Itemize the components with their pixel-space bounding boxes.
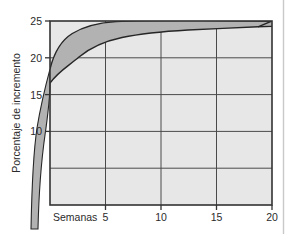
y-axis-title: Porcentaje de incremento xyxy=(10,53,22,173)
y-tick-label-10: 10 xyxy=(30,125,42,137)
x-tick-label-20: 20 xyxy=(266,211,278,223)
chart-svg: 25 20 15 10 5 10 15 20 Semanas Porcentaj… xyxy=(0,0,289,234)
y-tick-label-25: 25 xyxy=(30,15,42,27)
y-tick-label-15: 15 xyxy=(30,89,42,101)
x-tick-label-15: 15 xyxy=(211,211,223,223)
x-axis-title: Semanas xyxy=(53,211,97,223)
y-tick-label-20: 20 xyxy=(30,52,42,64)
x-tick-label-10: 10 xyxy=(155,211,167,223)
chart-figure: 25 20 15 10 5 10 15 20 Semanas Porcentaj… xyxy=(0,0,289,234)
x-tick-label-5: 5 xyxy=(103,211,109,223)
